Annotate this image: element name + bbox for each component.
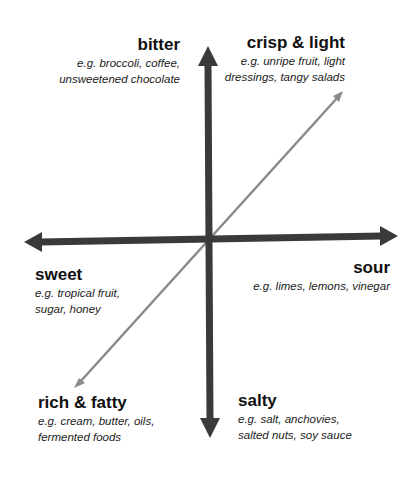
arrowhead-sour-icon — [380, 226, 398, 246]
label-rich-fatty-title: rich & fatty — [38, 393, 218, 413]
label-sweet-desc-2: sugar, honey — [35, 301, 205, 317]
label-crisp-light-title: crisp & light — [145, 33, 345, 53]
label-sweet: sweet e.g. tropical fruit, sugar, honey — [35, 265, 205, 317]
arrowhead-sweet-icon — [24, 232, 42, 252]
label-rich-fatty-desc-1: e.g. cream, butter, oils, — [38, 413, 218, 429]
label-sour-title: sour — [190, 258, 390, 278]
label-salty-title: salty — [238, 391, 408, 411]
label-sweet-title: sweet — [35, 265, 205, 285]
label-salty: salty e.g. salt, anchovies, salted nuts,… — [238, 391, 408, 443]
label-sour: sour e.g. limes, lemons, vinegar — [190, 258, 390, 294]
label-crisp-light-desc-2: dressings, tangy salads — [145, 69, 345, 85]
label-rich-fatty: rich & fatty e.g. cream, butter, oils, f… — [38, 393, 218, 445]
label-salty-desc-1: e.g. salt, anchovies, — [238, 411, 408, 427]
label-sweet-desc-1: e.g. tropical fruit, — [35, 285, 205, 301]
label-crisp-light-desc-1: e.g. unripe fruit, light — [145, 53, 345, 69]
label-sour-desc-1: e.g. limes, lemons, vinegar — [190, 278, 390, 294]
label-rich-fatty-desc-2: fermented foods — [38, 429, 218, 445]
label-salty-desc-2: salted nuts, soy sauce — [238, 427, 408, 443]
label-crisp-light: crisp & light e.g. unripe fruit, light d… — [145, 33, 345, 85]
